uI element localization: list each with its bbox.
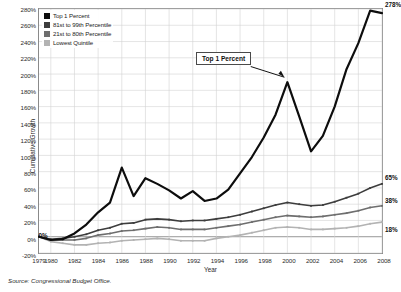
series-marker bbox=[74, 236, 76, 238]
legend-swatch-icon bbox=[44, 13, 50, 19]
series-marker bbox=[192, 220, 194, 222]
x-tick-label: 1982 bbox=[68, 257, 81, 264]
series-marker bbox=[109, 242, 111, 244]
y-tick-label: 40% bbox=[24, 202, 36, 209]
series-marker bbox=[251, 232, 253, 234]
legend-item-label: Top 1 Percent bbox=[53, 12, 89, 19]
series-end-label: 18% bbox=[385, 225, 398, 232]
series-marker bbox=[322, 216, 324, 218]
series-marker bbox=[62, 242, 64, 244]
series-marker bbox=[334, 201, 336, 203]
series-marker bbox=[168, 219, 170, 221]
series-marker bbox=[286, 215, 288, 217]
series-marker bbox=[192, 240, 194, 242]
series-marker bbox=[381, 205, 383, 207]
legend-swatch-icon bbox=[44, 31, 50, 37]
series-marker bbox=[204, 229, 206, 231]
x-tick-label: 1992 bbox=[187, 257, 200, 264]
series-marker bbox=[97, 229, 99, 231]
x-tick-label: 1994 bbox=[211, 257, 224, 264]
series-marker bbox=[286, 226, 288, 228]
series-marker bbox=[97, 242, 99, 244]
legend-item: 81st to 99th Percentile bbox=[44, 20, 111, 29]
series-marker bbox=[310, 216, 312, 218]
series-marker bbox=[298, 216, 300, 218]
y-tick-label: 280% bbox=[21, 6, 36, 13]
series-marker bbox=[121, 223, 123, 225]
series-marker bbox=[239, 234, 241, 236]
series-marker bbox=[168, 238, 170, 240]
series-marker bbox=[180, 229, 182, 231]
series-marker bbox=[346, 212, 348, 214]
series-marker bbox=[310, 205, 312, 207]
series-marker bbox=[121, 240, 123, 242]
series-marker bbox=[334, 228, 336, 230]
x-tick-label: 1984 bbox=[92, 257, 105, 264]
series-marker bbox=[322, 204, 324, 206]
series-end-label: 278% bbox=[385, 0, 401, 7]
legend-swatch-icon bbox=[44, 40, 50, 46]
x-tick-label: 1996 bbox=[235, 257, 248, 264]
y-tick-label: 60% bbox=[24, 186, 36, 193]
series-marker bbox=[216, 227, 218, 229]
series-marker bbox=[346, 197, 348, 199]
legend-item-label: 81st to 99th Percentile bbox=[53, 21, 111, 28]
series-marker bbox=[251, 211, 253, 213]
series-end-label: 65% bbox=[385, 174, 398, 181]
series-marker bbox=[263, 219, 265, 221]
origin-zero-label: 0% bbox=[38, 231, 47, 238]
x-axis-title: Year bbox=[38, 266, 383, 273]
series-marker bbox=[286, 202, 288, 204]
y-tick-label: 200% bbox=[21, 71, 36, 78]
y-tick-label: 120% bbox=[21, 137, 36, 144]
legend-swatch-icon bbox=[44, 22, 50, 28]
y-tick-label: 240% bbox=[21, 38, 36, 45]
series-marker bbox=[275, 204, 277, 206]
series-marker bbox=[334, 214, 336, 216]
series-line bbox=[39, 206, 382, 240]
series-marker bbox=[275, 227, 277, 229]
series-marker bbox=[369, 187, 371, 189]
legend-item-label: 21st to 80th Percentile bbox=[53, 30, 111, 37]
series-marker bbox=[381, 183, 383, 185]
series-marker bbox=[239, 214, 241, 216]
x-tick-label: 2000 bbox=[282, 257, 295, 264]
series-marker bbox=[227, 216, 229, 218]
series-marker bbox=[227, 225, 229, 227]
series-marker bbox=[97, 234, 99, 236]
y-tick-label: 180% bbox=[21, 88, 36, 95]
series-marker bbox=[156, 237, 158, 239]
series-marker bbox=[109, 233, 111, 235]
series-marker bbox=[145, 238, 147, 240]
x-tick-label: 2008 bbox=[377, 257, 390, 264]
series-marker bbox=[298, 203, 300, 205]
x-tick-label: 2006 bbox=[354, 257, 367, 264]
x-tick-label: 1980 bbox=[44, 257, 57, 264]
series-marker bbox=[180, 240, 182, 242]
y-tick-label: 20% bbox=[24, 219, 36, 226]
series-marker bbox=[168, 227, 170, 229]
series-marker bbox=[357, 210, 359, 212]
y-tick-label: 100% bbox=[21, 153, 36, 160]
source-note: Source: Congressional Budget Office. bbox=[8, 277, 112, 284]
series-marker bbox=[216, 218, 218, 220]
series-marker bbox=[322, 229, 324, 231]
series-marker bbox=[145, 228, 147, 230]
series-marker bbox=[133, 229, 135, 231]
series-marker bbox=[121, 230, 123, 232]
x-tick-label: 1990 bbox=[163, 257, 176, 264]
series-marker bbox=[145, 219, 147, 221]
legend-item: 21st to 80th Percentile bbox=[44, 29, 111, 38]
series-line bbox=[39, 184, 382, 239]
series-marker bbox=[204, 220, 206, 222]
series-marker bbox=[346, 227, 348, 229]
x-tick-label: 2002 bbox=[306, 257, 319, 264]
series-marker bbox=[310, 229, 312, 231]
series-marker bbox=[133, 239, 135, 241]
legend-item: Top 1 Percent bbox=[44, 11, 111, 20]
legend-item: Lowest Quintile bbox=[44, 38, 111, 47]
x-tick-label: 1988 bbox=[139, 257, 152, 264]
series-marker bbox=[216, 237, 218, 239]
series-marker bbox=[192, 229, 194, 231]
